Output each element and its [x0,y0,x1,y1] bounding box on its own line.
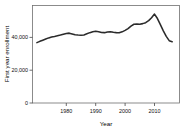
enrollment-line-series [37,14,172,43]
y-tick-label-40000: 40,000 [12,34,29,40]
x-tick-label-1990: 1990 [90,108,102,114]
y-tick-label-0: 0 [25,100,28,106]
x-axis-ticks [66,103,154,106]
x-axis-title: Year [100,120,113,127]
y-axis-ticks [30,37,33,103]
y-axis-title: First year enrollment [3,26,10,83]
chart-canvas: 0 20,000 40,000 First year enrollment 19… [0,0,189,132]
chart-figure: 0 20,000 40,000 First year enrollment 19… [0,0,189,132]
x-tick-label-1980: 1980 [60,108,72,114]
x-tick-label-2000: 2000 [119,108,131,114]
x-tick-label-2010: 2010 [149,108,161,114]
y-tick-label-20000: 20,000 [12,67,29,73]
